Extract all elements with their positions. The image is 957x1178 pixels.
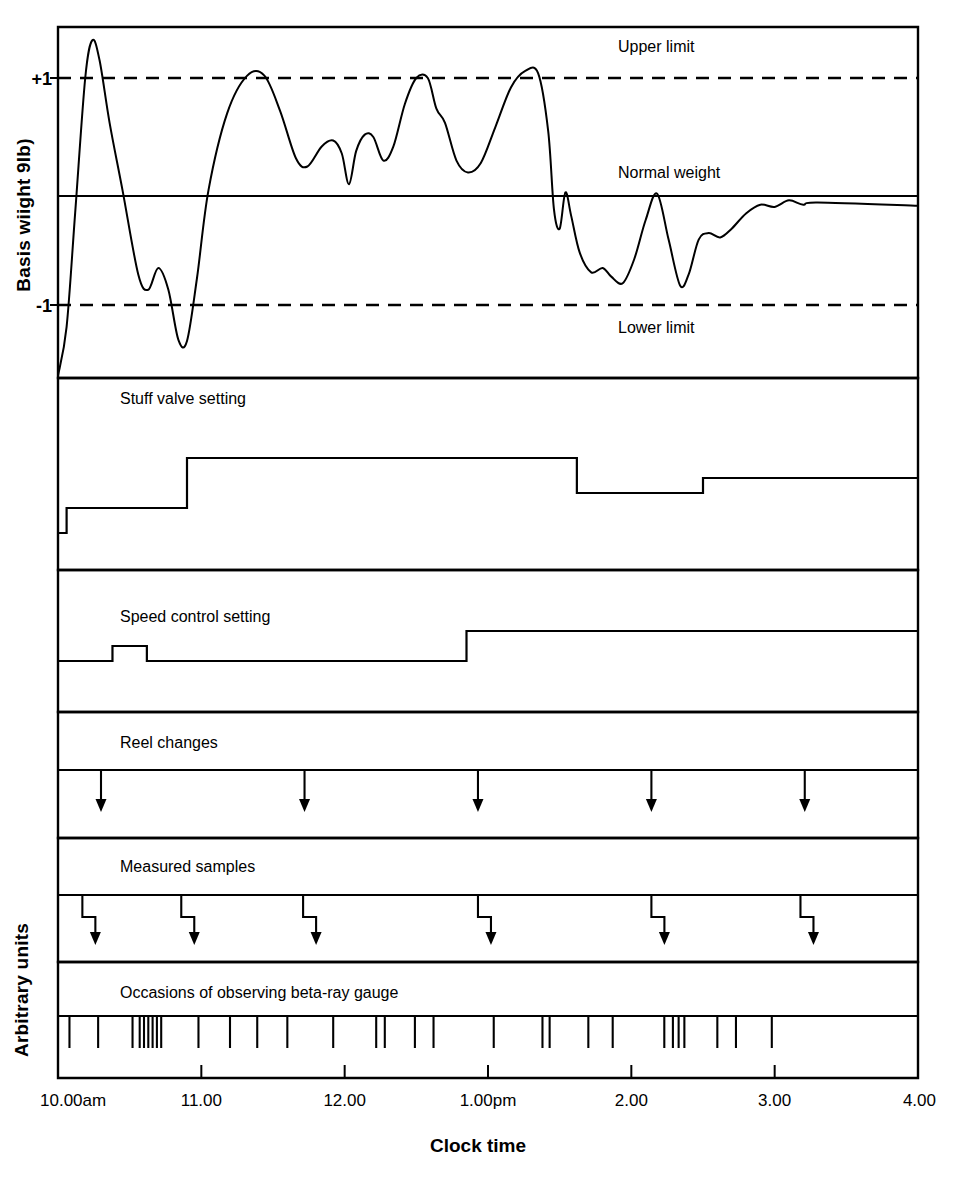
reel-change-arrow-group xyxy=(96,770,811,812)
measured-sample-arrow xyxy=(800,895,819,945)
measured-sample-arrow xyxy=(82,895,101,945)
normal-weight-label: Normal weight xyxy=(618,164,721,181)
reel-change-arrow xyxy=(96,770,107,812)
x-axis-tick-label: 11.00 xyxy=(181,1091,222,1110)
x-axis-tick-label: 2.00 xyxy=(615,1091,648,1110)
upper-limit-label: Upper limit xyxy=(618,38,695,55)
measured-sample-arrow xyxy=(303,895,322,945)
reel-change-arrow xyxy=(799,770,810,812)
y-tick-plus-one: +1 xyxy=(31,69,52,89)
basis-weight-panel-frame xyxy=(58,27,918,378)
x-axis-tick-label: 12.00 xyxy=(323,1091,366,1110)
panel-beta-ray: Occasions of observing beta-ray gauge xyxy=(58,962,918,1078)
x-axis-tick-label: 4.00 xyxy=(903,1091,936,1110)
x-axis-title: Clock time xyxy=(430,1135,526,1156)
process-control-chart: Basis wiight 9lb) Arbitrary units +1 -1 … xyxy=(0,0,957,1178)
reel-change-arrow xyxy=(472,770,483,812)
panel-reel-changes: Reel changes xyxy=(58,712,918,838)
measured-samples-panel-frame xyxy=(58,838,918,962)
speed-control-trace xyxy=(58,631,918,661)
panel-measured-samples: Measured samples xyxy=(58,838,918,962)
chart-canvas: Basis wiight 9lb) Arbitrary units +1 -1 … xyxy=(0,0,957,1178)
measured-sample-arrow xyxy=(181,895,200,945)
panel-basis-weight: Upper limit Normal weight Lower limit xyxy=(58,27,918,378)
x-axis-label-group: 10.00am11.0012.001.00pm2.003.004.00 xyxy=(40,1091,936,1110)
x-axis-tick-label: 3.00 xyxy=(758,1091,791,1110)
y-axis-label-arbitrary-units: Arbitrary units xyxy=(11,923,32,1057)
beta-ray-label: Occasions of observing beta-ray gauge xyxy=(120,984,398,1001)
measured-sample-arrow-group xyxy=(82,895,819,945)
measured-samples-label: Measured samples xyxy=(120,858,255,875)
stuff-valve-label: Stuff valve setting xyxy=(120,390,246,407)
speed-control-panel-frame xyxy=(58,570,918,712)
basis-weight-trace xyxy=(58,40,918,376)
measured-sample-arrow xyxy=(651,895,670,945)
reel-change-arrow xyxy=(299,770,310,812)
x-axis-tick-label: 1.00pm xyxy=(460,1091,517,1110)
y-tick-minus-one: -1 xyxy=(36,296,52,316)
y-axis-label-basis-weight: Basis wiight 9lb) xyxy=(13,138,34,291)
beta-ray-panel-frame xyxy=(58,962,918,1078)
panel-stuff-valve: Stuff valve setting xyxy=(58,378,918,570)
measured-sample-arrow xyxy=(478,895,497,945)
speed-control-label: Speed control setting xyxy=(120,608,270,625)
beta-ray-tick-group xyxy=(69,1016,771,1048)
x-axis-tick-label: 10.00am xyxy=(40,1091,106,1110)
reel-change-arrow xyxy=(646,770,657,812)
reel-changes-label: Reel changes xyxy=(120,734,218,751)
lower-limit-label: Lower limit xyxy=(618,319,695,336)
reel-changes-panel-frame xyxy=(58,712,918,838)
x-axis-tick-group xyxy=(201,1065,774,1078)
stuff-valve-trace xyxy=(58,458,918,533)
panel-speed-control: Speed control setting xyxy=(58,570,918,712)
